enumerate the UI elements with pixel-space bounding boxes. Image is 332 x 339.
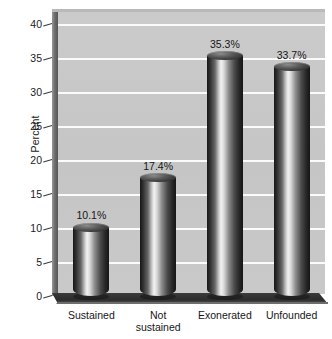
y-axis-tick-mark bbox=[43, 261, 52, 264]
bar-chart: 10.1%17.4%35.3%33.7% 0510152025303540 Su… bbox=[0, 0, 332, 339]
y-axis-tick: 10 bbox=[0, 222, 54, 234]
y-axis-title: Percent bbox=[29, 99, 41, 169]
y-axis-tick-label: 30 bbox=[18, 86, 42, 98]
x-axis-category-label: Not sustained bbox=[122, 309, 194, 333]
y-axis-tick: 15 bbox=[0, 188, 54, 200]
y-axis-tick-mark bbox=[43, 57, 52, 60]
y-axis-tick: 25 bbox=[0, 120, 54, 132]
y-axis-tick: 35 bbox=[0, 52, 54, 64]
y-axis-tick: 20 bbox=[0, 154, 54, 166]
y-axis-tick: 40 bbox=[0, 18, 54, 30]
x-axis-category-label: Unfounded bbox=[256, 309, 328, 321]
y-axis-tick-label: 40 bbox=[18, 18, 42, 30]
y-axis-tick: 30 bbox=[0, 86, 54, 98]
y-axis-tick-label: 5 bbox=[18, 256, 42, 268]
x-axis-category-label: Exonerated bbox=[189, 309, 261, 321]
y-axis-tick-label: 35 bbox=[18, 52, 42, 64]
y-axis-tick-mark bbox=[43, 23, 52, 26]
y-axis-tick-mark bbox=[43, 159, 52, 162]
y-axis-tick-label: 15 bbox=[18, 188, 42, 200]
y-axis-tick-mark bbox=[43, 193, 52, 196]
y-axis-tick-mark bbox=[43, 227, 52, 230]
y-axis-tick-label: 10 bbox=[18, 222, 42, 234]
y-axis-tick-label: 0 bbox=[18, 290, 42, 302]
x-axis-category-label: Sustained bbox=[55, 309, 127, 321]
y-axis-tick-mark bbox=[43, 91, 52, 94]
y-axis-tick: 0 bbox=[0, 290, 54, 302]
y-axis-tick-mark bbox=[43, 295, 52, 298]
y-axis-tick-mark bbox=[43, 125, 52, 128]
y-axis-ticks: 0510152025303540 bbox=[0, 0, 332, 339]
y-axis-tick: 5 bbox=[0, 256, 54, 268]
